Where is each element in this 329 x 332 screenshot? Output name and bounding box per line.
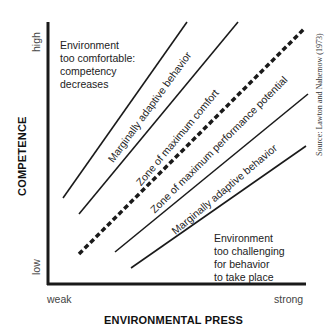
y-axis-title-text: COMPETENCE [16,116,28,196]
region-text-line: Environment [214,232,285,245]
x-axis-weak-label: weak [47,293,72,306]
region-text-line: for behavior [214,258,285,271]
y-axis-high-label: high [30,32,42,52]
region-text-line: too challenging [214,245,285,258]
region-text-line: decreases [60,78,135,91]
region-text-line: competency [60,65,135,78]
y-low-text: low [30,259,42,275]
region-too-comfortable: Environment too comfortable: competency … [60,39,135,91]
region-too-challenging: Environment too challenging for behavior… [214,232,285,284]
y-axis-low-label: low [30,259,42,275]
y-high-text: high [30,32,42,52]
y-axis-title: COMPETENCE [16,116,28,196]
region-text-line: to take place [214,271,285,284]
x-axis-title: ENVIRONMENTAL PRESS [104,314,243,326]
x-axis-strong-label: strong [274,293,303,306]
region-text-line: Environment [60,39,135,52]
region-text-line: too comfortable: [60,52,135,65]
source-citation: Source: Lawton and Nahemow (1973) [315,33,324,156]
